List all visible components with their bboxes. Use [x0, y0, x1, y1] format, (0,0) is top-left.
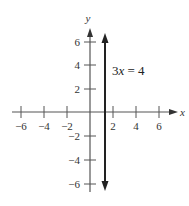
x-tick-label: 2 — [110, 120, 116, 132]
x-tick-label: 6 — [156, 120, 162, 132]
y-axis: y 6 4 2 −2 −4 −6 — [68, 12, 96, 192]
x-axis: x −6 −4 −2 2 4 6 — [12, 106, 185, 132]
y-tick-label: −2 — [68, 130, 80, 142]
x-tick-label: −6 — [15, 120, 27, 132]
line-top-arrow-icon — [102, 33, 109, 43]
y-tick-label: 6 — [75, 36, 81, 48]
y-tick-label: 4 — [75, 59, 81, 71]
y-tick-label: −6 — [68, 178, 80, 190]
x-axis-arrow-icon — [169, 109, 178, 115]
y-axis-arrow-icon — [87, 28, 93, 37]
x-tick-label: −4 — [38, 120, 50, 132]
y-tick-label: 2 — [75, 83, 81, 95]
equation-label: 3x = 4 — [112, 63, 145, 78]
coordinate-plane: x −6 −4 −2 2 4 6 y 6 4 2 −2 −4 −6 — [0, 0, 189, 206]
x-tick-label: 4 — [133, 120, 139, 132]
line-bottom-arrow-icon — [102, 181, 109, 191]
y-tick-label: −4 — [68, 154, 80, 166]
x-axis-label: x — [179, 106, 185, 118]
y-axis-label: y — [85, 12, 91, 24]
